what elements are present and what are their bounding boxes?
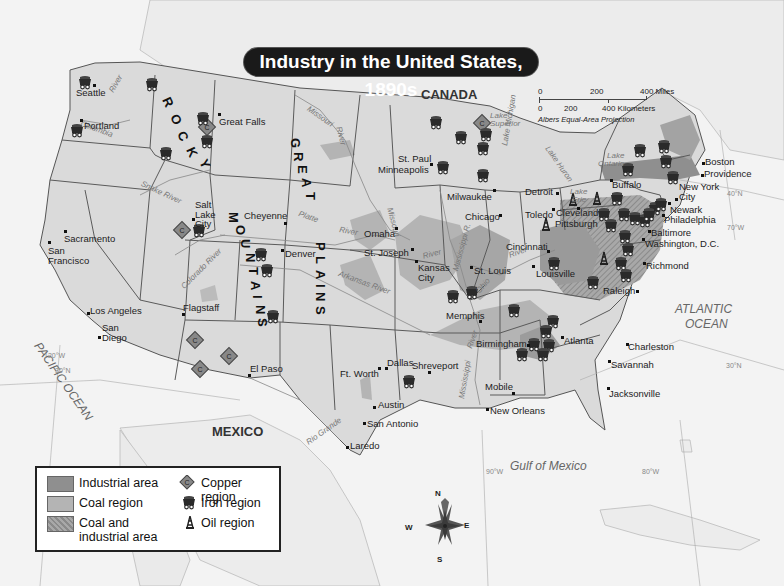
- region-great-e: E: [296, 165, 309, 174]
- city-baltimore: Baltimore: [651, 228, 691, 238]
- svg-text:C: C: [184, 479, 189, 486]
- city-louisville: Louisville: [536, 269, 575, 279]
- city-richmond: Richmond: [646, 261, 689, 271]
- city-el-paso: El Paso: [250, 364, 283, 374]
- oil-derrick-icon: [185, 516, 195, 530]
- compass-n: N: [435, 490, 441, 498]
- city-dallas: Dallas: [387, 358, 413, 368]
- compass-w: W: [405, 524, 413, 532]
- region-great-t: T: [304, 192, 317, 200]
- city-new-york-city: New York City: [679, 182, 729, 201]
- region-plains-n: N: [314, 292, 327, 301]
- city-san-antonio: San Antonio: [367, 419, 418, 429]
- city-toledo: Toledo: [525, 210, 553, 220]
- copper-diamond-icon: C: [178, 475, 198, 491]
- city-mobile: Mobile: [485, 382, 513, 392]
- lon-90-label: 90°W: [486, 468, 503, 475]
- scale-miles-0: 0: [538, 88, 542, 96]
- region-mountains-a: A: [249, 281, 262, 290]
- city-laredo: Laredo: [350, 441, 380, 451]
- atlantic-ocean-label-2: OCEAN: [685, 318, 728, 330]
- region-great-a: A: [300, 178, 313, 187]
- city-ft-worth: Ft. Worth: [340, 369, 379, 379]
- compass-star-icon: [405, 490, 485, 570]
- city-san-francisco: San Francisco: [48, 246, 98, 265]
- country-canada: CANADA: [421, 88, 477, 101]
- city-los-angeles: Los Angeles: [90, 306, 142, 316]
- region-mountains-n2: N: [254, 305, 267, 314]
- scale-km-0: 0: [538, 105, 542, 113]
- city-omaha: Omaha: [364, 229, 395, 239]
- city-great-falls: Great Falls: [219, 117, 265, 127]
- scale-km-400: 400 Kilometers: [602, 105, 655, 113]
- lat-30-east-label: 30°N: [726, 362, 742, 369]
- city-raleigh: Raleigh: [603, 286, 635, 296]
- mine-cart-icon: [182, 496, 196, 510]
- legend-iron-region: Iron region: [201, 496, 261, 510]
- lon-120-label: 120°W: [44, 352, 65, 359]
- region-plains-a: A: [314, 270, 327, 279]
- city-milwaukee: Milwaukee: [447, 192, 492, 202]
- lat-30-west-label: 30°N: [55, 367, 71, 374]
- gulf-of-mexico-label: Gulf of Mexico: [510, 460, 587, 472]
- lon-80-label: 80°W: [642, 468, 659, 475]
- lat-40-label: 40°N: [727, 190, 743, 197]
- region-great-r: R: [292, 152, 305, 161]
- city-kansas-city: Kansas City: [418, 263, 452, 282]
- region-plains-s: S: [314, 306, 327, 315]
- city-st-joseph: St. Joseph: [364, 248, 409, 258]
- city-sacramento: Sacramento: [64, 234, 115, 244]
- region-mountains-n: N: [244, 253, 257, 262]
- region-mountains-o: O: [234, 225, 247, 235]
- compass-rose: N S E W: [405, 490, 485, 570]
- city-memphis: Memphis: [446, 311, 485, 321]
- city-st-paul: St. Paul: [398, 154, 431, 164]
- city-atlanta: Atlanta: [564, 336, 594, 346]
- region-plains-p: P: [314, 242, 327, 251]
- city-new-orleans: New Orleans: [490, 406, 545, 416]
- city-providence: Providence: [704, 169, 752, 179]
- city-detroit: Detroit: [525, 187, 553, 197]
- scale-bar: 0 200 400 Miles 0 200 400 Kilometers Alb…: [538, 88, 698, 132]
- city-pittsburgh: Pittsburgh: [555, 219, 598, 229]
- city-san-diego: San Diego: [102, 323, 132, 342]
- lon-70-label: 70°W: [727, 224, 744, 231]
- region-great-g: G: [289, 138, 302, 148]
- city-savannah: Savannah: [611, 360, 654, 370]
- city-charleston: Charleston: [628, 342, 674, 352]
- city-buffalo: Buffalo: [612, 180, 641, 190]
- city-shreveport: Shreveport: [412, 361, 458, 371]
- region-mountains-m: M: [227, 212, 240, 223]
- city-cleveland: Cleveland: [556, 208, 598, 218]
- region-plains-l: L: [314, 256, 327, 264]
- legend-oil-region: Oil region: [201, 516, 255, 530]
- city-portland: Portland: [84, 121, 119, 131]
- legend-industrial-area: Industrial area: [79, 476, 158, 490]
- city-cheyenne: Cheyenne: [244, 211, 287, 221]
- city-chicago: Chicago: [465, 212, 500, 222]
- city-salt-lake-city: Salt Lake City: [195, 200, 225, 229]
- lake-ontario-2: Ontario: [598, 160, 624, 168]
- region-mountains-t: T: [247, 267, 260, 275]
- compass-s: S: [437, 556, 442, 564]
- scale-km-200: 200: [564, 105, 577, 113]
- map-title: Industry in the United States, 1890s: [244, 48, 538, 76]
- city-austin: Austin: [378, 400, 404, 410]
- coal-region-swatch: [47, 496, 74, 512]
- scale-miles-200: 200: [590, 88, 603, 96]
- city-cincinnati: Cincinnati: [506, 242, 548, 252]
- city-boston: Boston: [705, 157, 735, 167]
- city-flagstaff: Flagstaff: [183, 303, 219, 313]
- projection-label: Albers Equal-Area Projection: [538, 116, 634, 124]
- compass-e: E: [464, 522, 469, 530]
- city-philadelphia: Philadelphia: [664, 215, 716, 225]
- region-mountains-u: U: [239, 239, 252, 248]
- coal-industrial-swatch: [47, 516, 74, 532]
- city-jacksonville: Jacksonville: [609, 389, 660, 399]
- city-washington-dc: Washington, D.C.: [645, 239, 719, 249]
- scale-line: [539, 99, 647, 100]
- scale-miles-400: 400 Miles: [640, 88, 674, 96]
- city-birmingham: Birmingham: [476, 339, 527, 349]
- map-legend: Industrial area Coal region Coal and ind…: [35, 466, 281, 552]
- atlantic-ocean-label-1: ATLANTIC: [675, 303, 732, 315]
